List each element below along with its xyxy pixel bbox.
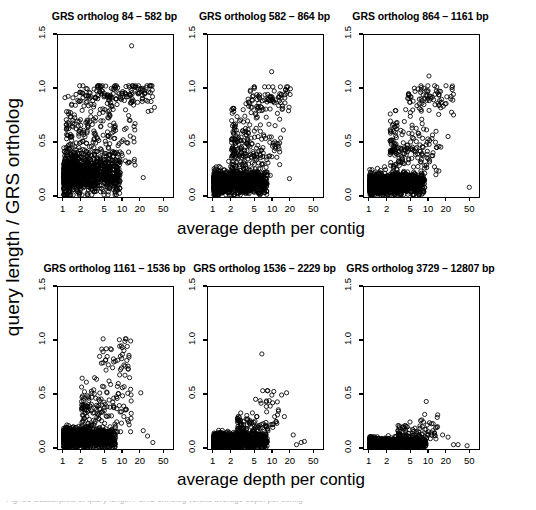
x-axis-tick	[62, 197, 63, 201]
y-axis-tick-label: 0.0	[342, 436, 353, 458]
x-axis-tick	[104, 449, 105, 453]
x-axis-tick	[445, 197, 446, 201]
x-axis-tick	[469, 449, 470, 453]
y-axis-tick	[203, 87, 207, 88]
y-axis-tick	[359, 447, 363, 448]
y-axis-tick-label: 1.0	[36, 328, 47, 350]
x-axis-tick-label: 20	[279, 203, 301, 214]
x-axis-tick-label: 2	[376, 203, 398, 214]
clipped-caption: Fig. S5 Scatterplots of query length / G…	[0, 501, 536, 510]
x-axis-tick	[386, 449, 387, 453]
x-axis-tick-label: 2	[220, 455, 242, 466]
x-axis-tick	[121, 449, 122, 453]
panel-title: GRS ortholog 864 – 1161 bp	[352, 10, 488, 22]
y-axis-tick-label: 1.5	[186, 22, 197, 44]
x-axis-tick	[104, 197, 105, 201]
x-axis-tick	[139, 449, 140, 453]
y-axis-tick	[203, 339, 207, 340]
x-axis-tick	[289, 197, 290, 201]
caption-text: Fig. S5 Scatterplots of query length / G…	[6, 501, 303, 504]
x-axis-tick-label: 2	[70, 203, 92, 214]
y-axis-tick-label: 0.5	[36, 130, 47, 152]
x-axis-tick	[427, 449, 428, 453]
x-axis-tick-label: 2	[220, 203, 242, 214]
y-axis-tick	[203, 141, 207, 142]
x-axis-tick-label: 20	[435, 203, 457, 214]
y-axis-tick-label: 0.5	[186, 382, 197, 404]
y-axis-tick	[359, 339, 363, 340]
x-axis-tick	[386, 197, 387, 201]
x-axis-tick-label: 20	[279, 455, 301, 466]
x-axis-tick	[445, 449, 446, 453]
x-axis-tick	[368, 449, 369, 453]
x-axis-tick	[289, 449, 290, 453]
y-axis-tick-label: 1.0	[36, 76, 47, 98]
y-axis-tick-label: 1.0	[342, 328, 353, 350]
x-axis-tick	[139, 197, 140, 201]
y-axis-tick	[359, 393, 363, 394]
y-axis-tick	[203, 393, 207, 394]
y-axis-tick	[53, 195, 57, 196]
panel-title: GRS ortholog 3729 – 12807 bp	[346, 262, 494, 274]
y-axis-tick	[203, 33, 207, 34]
y-axis-tick-label: 0.5	[36, 382, 47, 404]
y-axis-tick	[359, 285, 363, 286]
x-axis-tick	[254, 197, 255, 201]
x-axis-tick-label: 20	[435, 455, 457, 466]
scatter-points	[364, 287, 479, 449]
y-axis-tick-label: 0.5	[342, 130, 353, 152]
y-axis-tick-label: 1.0	[186, 328, 197, 350]
y-axis-tick-label: 1.5	[36, 22, 47, 44]
x-axis-tick	[80, 449, 81, 453]
x-axis-tick	[410, 449, 411, 453]
y-axis-tick	[203, 447, 207, 448]
x-axis-tick	[469, 197, 470, 201]
y-axis-tick	[359, 87, 363, 88]
x-axis-tick	[212, 197, 213, 201]
x-axis-tick-label: 2	[376, 455, 398, 466]
y-axis-tick	[53, 33, 57, 34]
scatter-panel: GRS ortholog 864 – 1161 bp0.00.51.01.512…	[303, 10, 536, 232]
x-axis-tick	[230, 197, 231, 201]
y-axis-tick-label: 0.0	[36, 184, 47, 206]
y-axis-tick-label: 0.5	[186, 130, 197, 152]
y-axis-tick	[53, 339, 57, 340]
y-axis-tick-label: 1.5	[342, 274, 353, 296]
y-axis-tick-label: 0.0	[342, 184, 353, 206]
x-axis-tick	[410, 197, 411, 201]
plot-frame	[363, 34, 480, 198]
y-axis-tick	[359, 141, 363, 142]
y-axis-tick-label: 0.0	[36, 436, 47, 458]
x-axis-tick-label: 50	[458, 455, 480, 466]
y-axis-tick-label: 1.5	[342, 22, 353, 44]
y-axis-tick	[359, 33, 363, 34]
y-axis-tick	[203, 195, 207, 196]
y-axis-tick-label: 0.0	[186, 184, 197, 206]
y-axis-tick-label: 1.0	[342, 76, 353, 98]
scatter-points	[364, 35, 479, 197]
x-axis-tick	[254, 449, 255, 453]
y-axis-tick-label: 1.5	[36, 274, 47, 296]
x-axis-tick-label: 2	[70, 455, 92, 466]
y-axis-tick	[359, 195, 363, 196]
y-axis-tick	[53, 87, 57, 88]
y-axis-tick-label: 0.5	[342, 382, 353, 404]
scatter-panel: GRS ortholog 3729 – 12807 bp0.00.51.01.5…	[303, 262, 536, 484]
plot-frame	[363, 286, 480, 450]
x-axis-tick	[230, 449, 231, 453]
y-axis-tick	[53, 141, 57, 142]
y-axis-tick	[53, 447, 57, 448]
x-axis-tick	[368, 197, 369, 201]
y-axis-tick	[203, 285, 207, 286]
x-axis-tick	[271, 197, 272, 201]
x-axis-tick	[271, 449, 272, 453]
y-axis-tick	[53, 285, 57, 286]
x-axis-tick	[121, 197, 122, 201]
y-axis-tick-label: 0.0	[186, 436, 197, 458]
x-axis-tick	[62, 449, 63, 453]
x-axis-tick-label: 50	[458, 203, 480, 214]
x-axis-tick	[212, 449, 213, 453]
y-axis-tick-label: 1.5	[186, 274, 197, 296]
x-axis-tick	[80, 197, 81, 201]
scatterplot-figure: query length / GRS ortholog average dept…	[0, 0, 536, 510]
